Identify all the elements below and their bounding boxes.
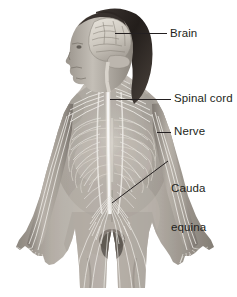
callout-label-cauda-equina-line2: equina [171, 221, 206, 234]
callout-label-spinal-cord: Spinal cord [174, 92, 233, 105]
nervous-system-figure: Brain Spinal cord Nerve Cauda equina [0, 0, 237, 297]
callout-label-cauda-equina-line1: Cauda [171, 182, 206, 195]
callout-label-nerve: Nerve [174, 125, 205, 138]
head-profile [66, 8, 153, 104]
callout-label-brain: Brain [170, 27, 197, 40]
callout-label-cauda-equina: Cauda equina [171, 156, 206, 260]
